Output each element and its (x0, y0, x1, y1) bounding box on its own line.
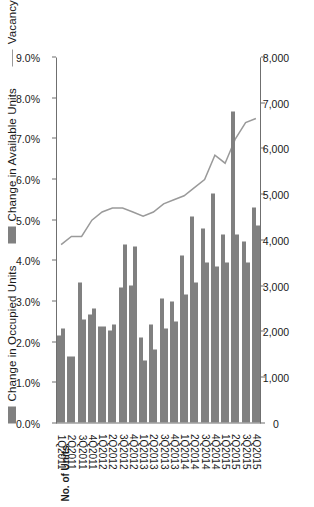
right-axis-tick (52, 56, 56, 57)
bar-change-in-occupied-units (92, 308, 96, 422)
bar-change-in-occupied-units (184, 294, 188, 422)
left-axis-tick-label: 5,000 (263, 188, 289, 200)
rotated-page-wrapper: Change in Occupied Units Change in Avail… (0, 0, 314, 507)
left-axis-tick (261, 422, 265, 423)
bar-change-in-occupied-units (102, 326, 106, 422)
right-axis-tick-label: 1.0% (16, 376, 40, 388)
bar-change-in-occupied-units (61, 328, 65, 422)
bar-change-in-occupied-units (235, 234, 239, 422)
legend-swatch-icon (8, 226, 16, 243)
category-label: 2Q2011 (66, 427, 77, 469)
bar-change-in-occupied-units (246, 262, 250, 422)
bar-change-in-occupied-units (143, 360, 147, 422)
bar-change-in-occupied-units (123, 244, 127, 422)
category-label: 2Q2012 (107, 427, 118, 469)
bar-change-in-occupied-units (215, 266, 219, 422)
right-axis-tick-label: 3.0% (16, 295, 40, 307)
chart-figure: Change in Occupied Units Change in Avail… (0, 0, 314, 507)
right-axis-tick-label: 6.0% (16, 173, 40, 185)
right-axis-tick-label: 4.0% (16, 254, 40, 266)
right-axis-tick-label: 5.0% (16, 214, 40, 226)
category-label: 3Q2013 (158, 427, 169, 469)
category-label: 3Q2015 (240, 427, 251, 469)
bar-change-in-occupied-units (71, 356, 75, 422)
bar-change-in-occupied-units (112, 324, 116, 422)
bar-change-in-occupied-units (256, 225, 260, 422)
bar-change-in-occupied-units (205, 262, 209, 422)
bar-change-in-occupied-units (153, 349, 157, 422)
bar-change-in-occupied-units (194, 282, 198, 422)
right-axis-tick (52, 178, 56, 179)
left-axis-tick-label: 6,000 (263, 143, 289, 155)
right-axis-tick (52, 300, 56, 301)
right-axis-tick-label: 2.0% (16, 336, 40, 348)
plot-area (56, 57, 261, 423)
bar-change-in-occupied-units (133, 246, 137, 422)
legend-swatch-icon (8, 406, 16, 423)
plot-inner (56, 57, 261, 423)
category-label: 2Q2013 (148, 427, 159, 469)
left-axis-tick-label: 7,000 (263, 97, 289, 109)
left-axis-tick-label: 4,000 (263, 234, 289, 246)
left-axis-tick-label: 8,000 (263, 51, 289, 63)
left-axis-tick-label: 3,000 (263, 280, 289, 292)
left-axis-tick-label: 2,000 (263, 326, 289, 338)
category-label: 4Q2015 (250, 427, 261, 469)
bar-change-in-occupied-units (174, 321, 178, 422)
bar-change-in-occupied-units (225, 262, 229, 422)
right-axis-tick-label: 0.0% (16, 417, 40, 429)
right-axis-tick (52, 259, 56, 260)
left-axis-tick-label: 0 (273, 417, 279, 429)
category-label: 3Q2014 (199, 427, 210, 469)
right-axis-tick-label: 8.0% (16, 92, 40, 104)
legend-line-icon (12, 49, 13, 66)
category-label: 3Q2012 (117, 427, 128, 469)
legend-label: Change in Available Units (6, 88, 18, 221)
bar-change-in-occupied-units (164, 328, 168, 422)
category-label: 2Q2014 (189, 427, 200, 469)
vacancy-rate-line (56, 57, 261, 423)
legend-label: Vacancy Rate (6, 0, 18, 44)
left-axis-tick-label: 1,000 (263, 371, 289, 383)
right-axis-tick (52, 381, 56, 382)
right-axis-tick (52, 341, 56, 342)
right-axis-tick-label: 7.0% (16, 132, 40, 144)
right-axis-tick (52, 97, 56, 98)
right-axis-tick (52, 422, 56, 423)
category-label: 2Q2015 (230, 427, 241, 469)
right-axis-tick (52, 137, 56, 138)
right-axis-tick (52, 219, 56, 220)
bar-change-in-occupied-units (82, 319, 86, 422)
right-axis-tick-label: 9.0% (16, 51, 40, 63)
category-label: 3Q2011 (76, 427, 87, 469)
